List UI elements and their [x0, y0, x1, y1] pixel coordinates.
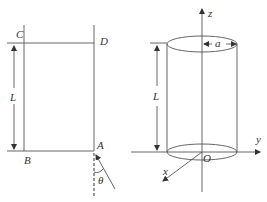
left-figure — [7, 25, 115, 196]
label-a: A — [97, 140, 104, 151]
diagram-svg — [0, 0, 267, 202]
label-l-right: L — [153, 91, 159, 102]
label-origin: O — [203, 153, 211, 164]
label-a-radius: a — [215, 38, 221, 49]
theta-arc — [94, 169, 103, 173]
label-x: x — [163, 166, 168, 177]
right-figure — [131, 9, 260, 192]
label-z: z — [208, 8, 212, 19]
label-b: B — [24, 155, 31, 166]
label-theta: θ — [98, 175, 103, 186]
label-d: D — [100, 36, 108, 47]
label-c: C — [16, 29, 23, 40]
x-axis — [163, 152, 202, 181]
diagram-canvas: C D L B A θ z a L y O x — [0, 0, 267, 202]
label-l-left: L — [10, 92, 16, 103]
label-y: y — [256, 134, 261, 145]
